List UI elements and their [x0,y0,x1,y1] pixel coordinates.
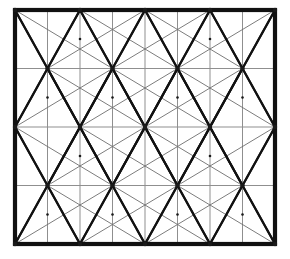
triangulated-grid-diagram [0,0,290,259]
hub-vertex-dot [240,183,244,187]
minor-vertex-dot [241,96,244,99]
minor-vertex-dot [79,38,82,41]
hub-vertex-dot [143,242,147,246]
hub-vertex-dot [110,183,114,187]
hub-vertex-dot [13,125,17,129]
minor-vertex-dot [46,213,49,216]
hub-vertex-dot [208,8,212,12]
minor-vertex-dot [176,213,179,216]
hub-vertex-dot [13,242,17,246]
hub-vertex-dot [45,183,49,187]
hub-vertex-dot [175,66,179,70]
hub-vertex-dot [273,8,277,12]
hub-vertex-dot [175,183,179,187]
hub-vertex-dot [45,66,49,70]
hub-vertex-dot [78,125,82,129]
hub-vertex-dot [78,8,82,12]
hub-vertex-dot [273,242,277,246]
minor-vertex-dot [241,213,244,216]
hub-vertex-dot [78,242,82,246]
minor-vertex-dot [79,155,82,158]
minor-vertex-dot [209,38,212,41]
figure-root [0,0,290,259]
hub-vertex-dot [13,8,17,12]
hub-vertex-dot [240,66,244,70]
minor-vertex-dot [111,213,114,216]
minor-vertex-dot [111,96,114,99]
minor-vertex-dot [176,96,179,99]
minor-vertex-dot [209,155,212,158]
hub-vertex-dot [143,8,147,12]
minor-vertex-dot [46,96,49,99]
hub-vertex-dot [143,125,147,129]
hub-vertex-dot [110,66,114,70]
hub-vertex-dot [273,125,277,129]
hub-vertex-dot [208,242,212,246]
hub-vertex-dot [208,125,212,129]
